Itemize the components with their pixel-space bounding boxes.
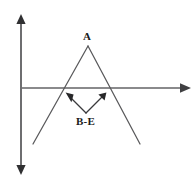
curve-group bbox=[33, 46, 140, 144]
rising-line bbox=[33, 46, 88, 144]
right-pointer-shaft bbox=[86, 97, 103, 114]
figure-svg bbox=[0, 0, 196, 181]
annotation-arrows-group bbox=[66, 93, 107, 113]
y-axis-down-arrow-icon bbox=[16, 165, 25, 175]
region-label-be: B-E bbox=[76, 116, 95, 127]
apex-label-a: A bbox=[83, 31, 91, 42]
y-axis-up-arrow-icon bbox=[16, 14, 25, 24]
left-pointer-arrow-icon bbox=[66, 93, 74, 103]
x-axis-arrow-icon bbox=[180, 83, 191, 93]
falling-line bbox=[88, 46, 140, 144]
figure-canvas: A B-E bbox=[0, 0, 196, 181]
